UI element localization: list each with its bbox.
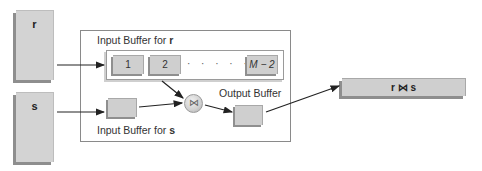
arrows-layer [0, 0, 482, 171]
arrow-buffer-s-to-join [139, 103, 182, 107]
arrow-output-to-result [266, 86, 339, 112]
arrow-buffer-r-to-join [162, 81, 183, 98]
arrow-join-to-output [205, 105, 232, 112]
